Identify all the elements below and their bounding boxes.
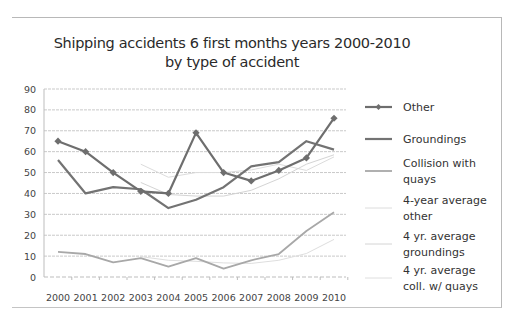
y-tick-label: 80	[24, 104, 36, 115]
y-tick-label: 0	[30, 272, 36, 283]
legend-label: 4-year average	[403, 194, 487, 207]
diamond-marker	[165, 190, 172, 197]
legend-diamond-marker	[376, 104, 382, 110]
series-line-2	[58, 212, 334, 268]
y-tick-label: 20	[24, 230, 36, 241]
line-chart: 0102030405060708090200020012002200320042…	[0, 0, 520, 322]
x-tick-label: 2004	[156, 292, 180, 303]
y-tick-label: 90	[24, 84, 36, 95]
x-tick-label: 2007	[239, 292, 263, 303]
x-tick-label: 2000	[46, 292, 70, 303]
legend-label: Other	[403, 101, 435, 114]
x-tick-label: 2006	[212, 292, 236, 303]
legend-label: 4 yr. average	[403, 264, 476, 277]
series-line-5	[141, 239, 334, 263]
legend-label: Collision with	[403, 157, 476, 170]
legend-label: 4 yr. average	[403, 230, 476, 243]
x-tick-label: 2005	[184, 292, 208, 303]
x-tick-label: 2010	[322, 292, 346, 303]
x-tick-label: 2009	[294, 292, 318, 303]
y-tick-label: 40	[24, 188, 36, 199]
legend-label: other	[403, 210, 433, 223]
diamond-marker	[54, 138, 61, 145]
series-lines	[54, 115, 337, 269]
y-tick-label: 30	[24, 209, 36, 220]
legend-label: coll. w/ quays	[403, 280, 478, 293]
diamond-marker	[248, 177, 255, 184]
x-tick-label: 2002	[101, 292, 125, 303]
legend-label: quays	[403, 173, 436, 186]
x-tick-label: 2003	[129, 292, 153, 303]
y-tick-label: 70	[24, 125, 36, 136]
legend: OtherGroundingsCollision withquays4-year…	[365, 101, 487, 293]
legend-label: Groundings	[403, 133, 466, 146]
y-tick-label: 60	[24, 146, 36, 157]
x-tick-label: 2008	[267, 292, 291, 303]
legend-label: groundings	[403, 246, 465, 259]
y-tick-label: 50	[24, 167, 36, 178]
y-tick-label: 10	[24, 251, 36, 262]
x-tick-label: 2001	[74, 292, 98, 303]
